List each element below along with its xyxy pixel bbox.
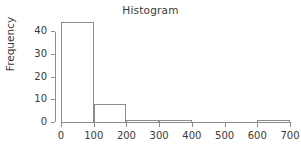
y-axis-line	[55, 32, 56, 122]
histogram-bar	[94, 104, 127, 122]
y-axis-tick	[51, 122, 55, 123]
x-axis-tick-label: 500	[210, 130, 240, 141]
x-axis-tick	[126, 123, 127, 127]
y-axis-tick-label: 30	[20, 48, 47, 59]
x-axis-tick-label: 600	[242, 130, 272, 141]
x-axis-tick	[225, 123, 226, 127]
histogram-bar	[126, 120, 159, 122]
x-axis-tick	[61, 123, 62, 127]
y-axis-tick-label: 10	[20, 93, 47, 104]
x-axis-tick	[192, 123, 193, 127]
histogram-bar	[61, 22, 94, 122]
histogram-chart: Histogram Frequency 01002003004005006007…	[0, 0, 301, 160]
x-axis-tick-label: 200	[111, 130, 141, 141]
x-axis-tick-label: 100	[79, 130, 109, 141]
chart-title: Histogram	[0, 4, 301, 16]
plot-area	[61, 20, 290, 122]
x-axis-tick	[290, 123, 291, 127]
y-axis-tick-label: 40	[20, 25, 47, 36]
y-axis-tick-label: 0	[20, 116, 47, 127]
y-axis-label: Frequency	[4, 8, 16, 80]
x-axis-tick-label: 0	[46, 130, 76, 141]
y-axis-tick-label: 20	[20, 71, 47, 82]
x-axis-tick	[94, 123, 95, 127]
x-axis-tick	[257, 123, 258, 127]
histogram-bar	[159, 120, 192, 122]
histogram-bar	[257, 120, 290, 122]
y-axis-tick	[51, 99, 55, 100]
x-axis-tick-label: 700	[275, 130, 301, 141]
x-axis-tick-label: 400	[177, 130, 207, 141]
x-axis-tick	[159, 123, 160, 127]
y-axis-tick	[51, 31, 55, 32]
y-axis-tick	[51, 77, 55, 78]
x-axis-tick-label: 300	[144, 130, 174, 141]
y-axis-tick	[51, 54, 55, 55]
